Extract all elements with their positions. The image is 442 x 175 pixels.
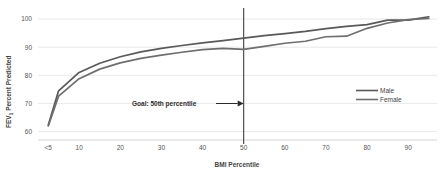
x-axis-tick-label: 90 [405,144,413,151]
x-axis-tick-label: 60 [281,144,289,151]
x-axis-title: BMI Percentile [215,161,260,168]
x-axis-tick-label: 20 [117,144,125,151]
legend-label-female: Female [380,96,402,103]
y-axis-title-rest: Percent Predicted [5,56,12,113]
x-axis-tick-label: 70 [322,144,330,151]
y-axis-tick-label: 80 [25,72,33,79]
x-axis-tick-label: <5 [45,144,53,151]
y-axis-tick-label: 100 [21,15,32,22]
x-axis-tick-label: 10 [76,144,84,151]
y-axis-tick-label: 60 [25,128,33,135]
y-axis-tick-label: 70 [25,100,33,107]
x-axis-tick-label: 40 [199,144,207,151]
y-axis-tick-label: 90 [25,44,33,51]
legend-label-male: Male [380,87,394,94]
line-chart: 60708090100 <5102030405060708090 Goal: 5… [0,0,442,175]
chart-container: 60708090100 <5102030405060708090 Goal: 5… [0,0,442,175]
x-axis-tick-label: 80 [363,144,371,151]
goal-annotation-label: Goal: 50th percentile [132,100,197,108]
x-axis-tick-label: 50 [240,144,248,151]
y-axis-title-main: FEV [5,115,12,128]
x-axis-tick-label: 30 [158,144,166,151]
